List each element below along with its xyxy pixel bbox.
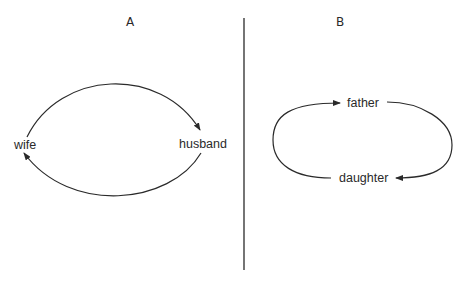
diagram-canvas xyxy=(0,0,463,285)
panel-a-title: A xyxy=(126,15,134,29)
node-daughter: daughter xyxy=(339,171,388,185)
edge-daughter-to-father xyxy=(273,103,340,178)
edge-husband-to-wife xyxy=(24,153,201,196)
panel-b-title: B xyxy=(336,15,344,29)
node-wife: wife xyxy=(14,138,36,152)
node-father: father xyxy=(347,96,379,110)
edge-wife-to-husband xyxy=(27,84,200,137)
node-husband: husband xyxy=(179,137,227,151)
edge-father-to-daughter xyxy=(387,102,452,178)
